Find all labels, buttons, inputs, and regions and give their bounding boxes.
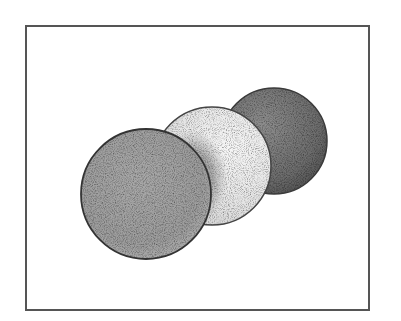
- spheres-drawing: [0, 0, 401, 321]
- front-gray-sphere: [81, 129, 211, 259]
- illustration: Three overlapping stippled spheres insid…: [0, 0, 401, 321]
